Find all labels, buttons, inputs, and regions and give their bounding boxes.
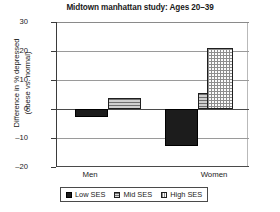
chart-figure: Midtown manhattan study: Ages 20–39 Diff… [0, 0, 280, 212]
bar-men-low-ses [75, 109, 108, 117]
y-tick-label-30: 30 [2, 18, 28, 26]
chart-title: Midtown manhattan study: Ages 20–39 [0, 3, 280, 12]
bar-women-low-ses [165, 109, 198, 146]
y-tick-label-20: 20 [2, 47, 28, 55]
bar-men-mid-ses [108, 98, 141, 109]
y-tick-label-0: 0 [2, 105, 28, 113]
plot-area [56, 22, 248, 167]
bar-women-high-ses [207, 48, 233, 109]
legend-label-high-ses: High SES [170, 190, 202, 199]
gridline-30 [57, 22, 249, 23]
legend-item-high-ses[interactable]: High SES [161, 190, 202, 199]
y-tick-label-10: 10 [2, 76, 28, 84]
legend-item-mid-ses[interactable]: Mid SES [114, 190, 152, 199]
legend-swatch-low-ses-icon [66, 192, 72, 198]
legend-swatch-mid-ses-icon [114, 192, 120, 198]
legend-label-mid-ses: Mid SES [123, 190, 152, 199]
x-axis-label-women: Women [180, 170, 248, 179]
gridline-neg10 [57, 138, 249, 139]
chart-legend: Low SES Mid SES High SES [60, 187, 208, 202]
y-tick-label-neg20: –20 [2, 163, 28, 171]
gridline-neg20 [57, 166, 249, 167]
y-tick-mark-neg20 [51, 167, 56, 168]
legend-swatch-high-ses-icon [161, 192, 167, 198]
x-axis-label-men: Men [56, 170, 124, 179]
legend-label-low-ses: Low SES [75, 190, 105, 199]
y-tick-label-neg10: –10 [2, 134, 28, 142]
legend-item-low-ses[interactable]: Low SES [66, 190, 105, 199]
